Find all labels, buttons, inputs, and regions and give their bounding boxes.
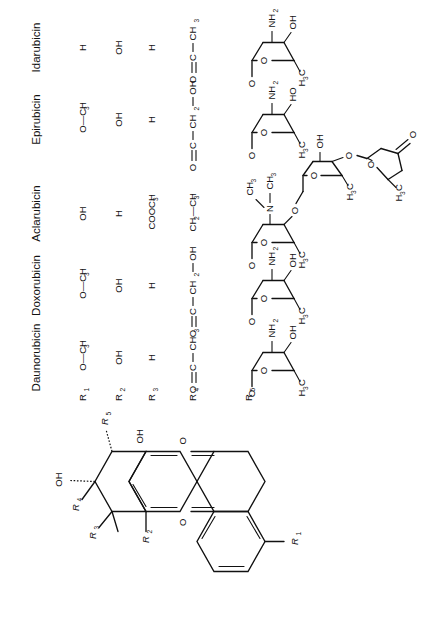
cell-r3-idarubicin: H [146,43,157,50]
methyl-label: H3C [296,307,309,325]
ring-oxygen-2: O [308,171,319,178]
figure-canvas: OOOHOHR1R2R3R4R5R1R2R3R4R5DaunorubicinO—… [0,0,428,619]
aromatic-inner [247,516,260,538]
bond [284,216,292,224]
h-atom: H [296,389,307,396]
h-subscript: 3 [399,191,406,195]
carbonyl-oxygen: O [187,75,198,82]
cell-r1-epirubicin: O—CH3 [77,101,90,132]
column-header-epirubicin: Epirubicin [30,94,42,145]
hydroxyl-label: HO [287,87,298,101]
column-header-doxorubicin: Doxorubicin [30,255,42,316]
glycosidic-oxygen: O [246,389,257,396]
h-atom: H [393,194,404,201]
r-subscript: 2 [146,529,153,533]
r-base: R [140,535,151,542]
r-base: R [289,537,300,544]
column-header-daunorubicin: Daunorubicin [30,323,42,391]
h-atom: H [296,79,307,86]
cell-r2-aclarubicin: H [113,209,124,216]
bond [398,153,402,170]
r-base: R [146,393,157,400]
carbonyl-carbon: C [187,307,198,314]
nitrogen-atom: N [264,204,275,211]
bond [284,224,294,242]
h-subscript: 3 [302,386,309,390]
cell-r2-epirubicin: OH [113,112,124,126]
h-subscript: 3 [302,258,309,262]
c-atom: C [344,183,355,190]
methyl-label: CH [187,26,198,40]
sugar-daunorubicin: OONH2OHH3C [246,318,309,397]
carbonyl-oxygen: O [187,163,198,170]
hash-bond-r5 [106,429,112,451]
c-atom: C [296,251,307,258]
interglycosidic-oxygen-2: O [343,151,354,158]
glycosidic-oxygen: O [246,79,257,86]
formula-part: 3 [152,197,159,201]
methyl-subscript: 3 [193,18,200,22]
n-methyl-2: CH [264,175,275,189]
formula-part: 3 [193,195,200,199]
n-methyl-1: CH [244,181,255,195]
interglycosidic-oxygen-1: O [289,206,300,213]
column-epirubicin: EpirubicinO—CH3OHHOCCH2OHOONH2HOH3C [30,80,309,171]
r-subscript: 5 [105,411,112,415]
glycosidic-oxygen: O [246,151,257,158]
cell-r3-epirubicin: H [146,115,157,122]
formula-part: 3 [83,105,90,109]
ring-oxygen-3: O [365,160,376,167]
r-subscript: 3 [93,525,100,529]
methylene-label: CH [187,280,198,294]
bond-c9-methyl [112,511,118,531]
bond [284,270,291,280]
h-atom: H [296,317,307,324]
amine-subscript: 2 [272,318,279,322]
r-subscript: 1 [83,387,90,391]
amine-subscript: 2 [272,8,279,12]
h-atom: H [344,193,355,200]
bond [284,114,294,132]
r-subscript: 4 [76,497,83,501]
hydroxyl-label: OH [287,15,298,29]
ring-oxygen-1: O [258,238,269,245]
r-base: R [87,531,98,538]
core-oxygen-upper: O [177,518,188,525]
core-label-r3: R3 [87,525,100,538]
methyl-label-3: H3C [393,184,406,202]
c-atom: C [296,69,307,76]
ring-b [129,451,197,511]
column-aclarubicin: AclarubicinOHHCOOCH3CH2—CH3OONCH3CH3H3CO… [30,130,418,268]
cell-r4-daunorubicin: OCCH3 [187,328,200,393]
r-base: R [77,393,88,400]
aromatic-inner [133,484,146,506]
core-label-r4: R4 [70,497,83,510]
cell-r3-doxorubicin: H [146,281,157,288]
carbonyl-oxygen: O [187,329,198,336]
cell-r4-idarubicin: OCCH3 [187,18,200,83]
r-base: R [70,503,81,510]
row-label-column: R1R2R3R4R5 [77,387,256,400]
bond [377,167,388,179]
sugar-idarubicin: OONH2OHH3C [246,8,309,87]
h-subscript: 3 [302,148,309,152]
row-label-r1: R1 [77,387,90,400]
hydroxyl-label: OH [187,246,198,260]
formula-part: 3 [83,271,90,275]
carbonyl-oxygen: O [187,385,198,392]
bond [284,42,294,60]
c-atom: C [296,379,307,386]
c-atom: C [393,184,404,191]
ring-oxygen: O [258,366,269,373]
column-daunorubicin: DaunorubicinO—CH3OHHOCCH3OONH2OHH3C [30,318,309,397]
h-subscript: 3 [350,190,357,194]
cell-r2-idarubicin: OH [113,40,124,54]
column-header-aclarubicin: Aclarubicin [30,185,42,241]
bond [398,143,410,153]
methyl-label-2: H3C [344,183,357,201]
hydroxyl-label-2: OH [314,134,325,148]
glycosidic-oxygen: O [246,317,257,324]
ring-oxygen: O [258,56,269,63]
cell-r2-daunorubicin: OH [113,350,124,364]
r-base: R [99,417,110,424]
